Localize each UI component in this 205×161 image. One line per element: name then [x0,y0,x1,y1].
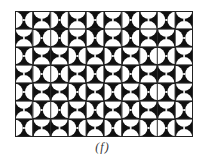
figure-caption: (f) [0,140,205,155]
tile-grid [15,11,193,137]
tiled-pattern-figure [15,11,193,137]
